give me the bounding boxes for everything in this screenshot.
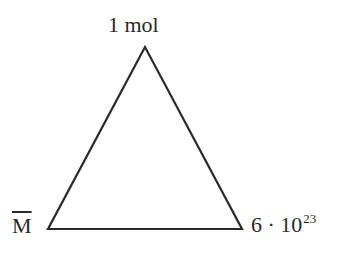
vertex-label-bottom-left: M <box>12 215 32 237</box>
triangle-shape <box>48 47 242 229</box>
avogadro-base: 6 · 10 <box>251 212 302 237</box>
vertex-label-top: 1 mol <box>108 14 159 36</box>
molar-mass-symbol: M <box>12 213 32 238</box>
avogadro-exponent: 23 <box>303 211 316 226</box>
vertex-label-bottom-right: 6 · 1023 <box>251 212 316 236</box>
